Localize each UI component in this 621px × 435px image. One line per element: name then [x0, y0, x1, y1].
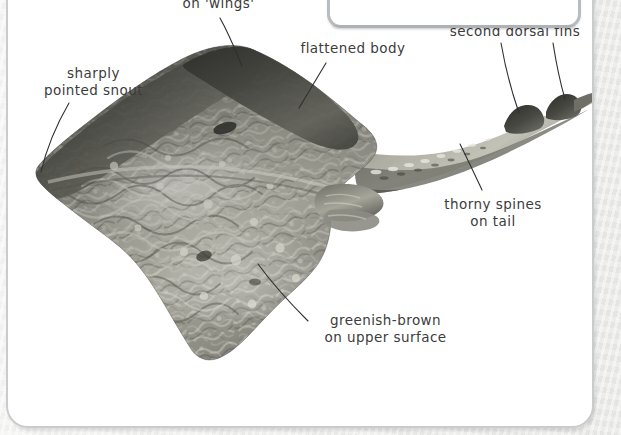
leader-pointed-snout: [41, 103, 69, 172]
leader-flattened-body: [299, 63, 326, 108]
leader-dorsal-2: [553, 43, 565, 99]
annotation-pointed-snout: sharply pointed snout: [26, 65, 161, 99]
leader-thorny-spines: [460, 144, 482, 190]
annotation-greenish-brown: greenish-brown on upper surface: [313, 312, 458, 346]
annotation-thorny-spines: thorny spines on tail: [428, 196, 558, 230]
top-rounded-tab: [327, 0, 581, 28]
annotation-flattened-body-line1: flattened body: [291, 40, 415, 57]
annotation-pointed-snout-line2: pointed snout: [26, 82, 161, 99]
annotation-greenish-brown-line1: greenish-brown: [313, 312, 458, 329]
leader-greenish-brown: [258, 264, 308, 321]
annotation-flattened-body: flattened body: [291, 40, 415, 57]
leader-lines: [41, 18, 565, 321]
leader-sharp-corners: [220, 18, 242, 66]
annotation-pointed-snout-line1: sharply: [26, 65, 161, 82]
leader-dorsal-1: [501, 43, 519, 113]
ray-tail: [348, 94, 594, 198]
annotation-greenish-brown-line2: on upper surface: [313, 329, 458, 346]
content-panel: sharp corners on 'wings' sharply pointed…: [6, 0, 594, 428]
pelvic-fin: [315, 184, 384, 231]
annotation-sharp-corners: sharp corners on 'wings': [151, 0, 286, 12]
annotation-sharp-corners-line2: on 'wings': [151, 0, 286, 12]
dorsal-fins: [504, 92, 594, 134]
figure-page: sharp corners on 'wings' sharply pointed…: [0, 0, 621, 435]
annotation-thorny-spines-line1: thorny spines: [428, 196, 558, 213]
annotation-thorny-spines-line2: on tail: [428, 213, 558, 230]
